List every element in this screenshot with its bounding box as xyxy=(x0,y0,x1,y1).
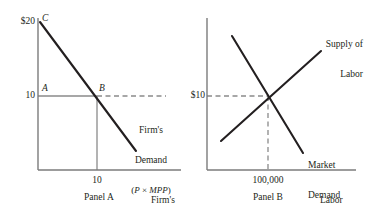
panel-b-demand-label-line1: Market xyxy=(308,160,340,170)
panel-a-x-axis-title-line1: Firm's xyxy=(151,195,175,205)
panel-a-demand-label-line1: Firm's xyxy=(118,125,184,135)
panel-b-supply-label: Supply of Labor xyxy=(292,18,363,100)
times-operator: × xyxy=(140,185,150,195)
panel-a-point-b: B xyxy=(99,83,105,93)
panel-a-ytick-20: $20 xyxy=(2,16,35,26)
panel-a-point-c: C xyxy=(42,13,48,23)
figure-canvas: $20 10 10 C A B Firm's Demand (P × MPP) … xyxy=(0,0,365,210)
panel-b-caption: Panel B xyxy=(233,192,303,202)
panel-b-xtick-100000: 100,000 xyxy=(243,175,293,185)
panel-b-x-axis-title: Labor Market xyxy=(320,174,347,210)
panel-b-x-axis-title-line1: Labor xyxy=(320,195,347,205)
panel-a-caption: Panel A xyxy=(64,192,134,202)
panel-a-point-a: A xyxy=(42,83,48,93)
panel-b-supply-label-line1: Supply of xyxy=(292,39,363,49)
panel-a-demand-label-line2: Demand xyxy=(118,155,184,165)
panel-a-x-axis-title: Firm's Labor xyxy=(151,174,175,210)
panel-b-ytick-10: $10 xyxy=(172,90,205,100)
panel-a-ytick-10: 10 xyxy=(2,90,35,100)
panel-a-xtick-10: 10 xyxy=(82,175,112,185)
panel-b-supply-label-line2: Labor xyxy=(292,69,363,79)
